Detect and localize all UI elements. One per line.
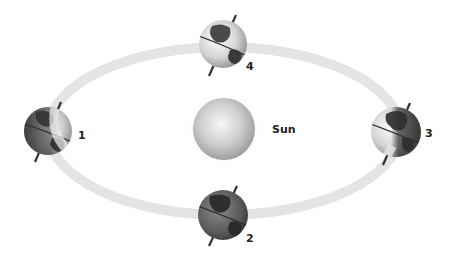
earth-label-4: 4 [246, 61, 254, 72]
sun-label: Sun [272, 124, 296, 135]
earth-position-1 [24, 102, 73, 162]
earth-position-2 [198, 186, 248, 246]
earth-position-3 [371, 103, 421, 166]
orbit-diagram [0, 0, 455, 264]
earth-label-2: 2 [246, 233, 254, 244]
earth-label-3: 3 [425, 128, 433, 139]
sun [186, 91, 262, 167]
earth-label-1: 1 [78, 130, 86, 141]
earth-position-4 [199, 15, 247, 76]
